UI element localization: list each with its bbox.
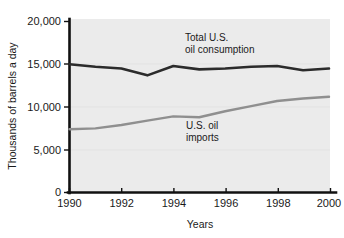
annotation-consumption-line-1: Total U.S.	[185, 32, 228, 43]
y-tick-label-15000: 15,000	[27, 58, 61, 70]
chart-canvas: 20,000 15,000 10,000 5,000 0 1990 1992 1…	[0, 0, 344, 238]
annotation-consumption-line-2: oil consumption	[185, 44, 254, 55]
x-tick-label-2000: 2000	[317, 197, 341, 209]
annotation-imports-line-2: imports	[186, 132, 219, 143]
y-tick-label-5000: 5,000	[33, 144, 61, 156]
x-tick-label-1996: 1996	[214, 197, 238, 209]
x-tick-label-1990: 1990	[57, 197, 81, 209]
x-tick-label-1992: 1992	[109, 197, 133, 209]
oil-consumption-chart-figure: 20,000 15,000 10,000 5,000 0 1990 1992 1…	[0, 0, 344, 238]
y-axis-title: Thousands of barrels a day	[6, 42, 18, 170]
x-tick-label-1998: 1998	[266, 197, 290, 209]
y-tick-label-10000: 10,000	[27, 101, 61, 113]
annotation-oil-imports: U.S. oil imports	[186, 120, 219, 143]
x-tick-label-1994: 1994	[162, 197, 186, 209]
annotation-imports-line-1: U.S. oil	[186, 120, 218, 131]
x-axis-title: Years	[187, 218, 213, 230]
y-tick-label-20000: 20,000	[27, 15, 61, 27]
